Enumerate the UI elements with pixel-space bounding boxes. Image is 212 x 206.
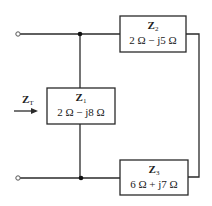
- z1-sub: 1: [83, 97, 87, 105]
- z2-label: Z2 2 Ω − j5 Ω: [120, 20, 186, 46]
- z3-value: 6 Ω + j7 Ω: [120, 179, 188, 190]
- z3-sub: 3: [156, 169, 160, 177]
- z3-name: Z: [149, 163, 156, 175]
- z2-name: Z: [148, 19, 155, 31]
- z2-sub: 2: [155, 25, 159, 33]
- zt-label: ZT: [22, 94, 34, 107]
- junction-top-icon: [78, 32, 83, 37]
- z3-label: Z3 6 Ω + j7 Ω: [120, 164, 188, 190]
- terminal-top-icon: [16, 32, 20, 36]
- right-arrow-icon: [31, 108, 38, 114]
- z2-value: 2 Ω − j5 Ω: [120, 35, 186, 46]
- z1-value: 2 Ω − j8 Ω: [47, 107, 115, 118]
- circuit-diagram: ZT Z2 2 Ω − j5 Ω Z1 2 Ω − j8 Ω Z3 6 Ω + …: [0, 0, 212, 206]
- z1-name: Z: [76, 91, 83, 103]
- zt-label-sub: T: [29, 99, 33, 107]
- right-wire: [186, 34, 199, 177]
- terminal-bottom-icon: [16, 176, 20, 180]
- junction-bottom-icon: [79, 176, 84, 181]
- z1-label: Z1 2 Ω − j8 Ω: [47, 92, 115, 118]
